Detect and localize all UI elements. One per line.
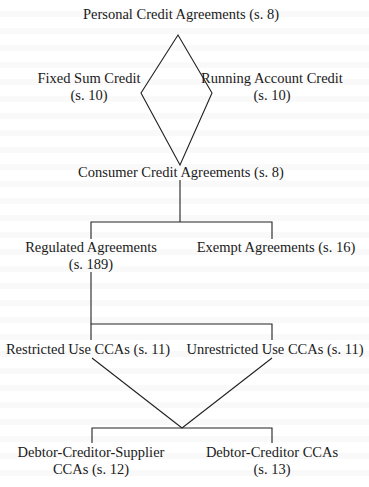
node-label: Exempt Agreements (s. 16): [197, 239, 356, 256]
node-section: (s. 13): [206, 461, 338, 478]
connector-regulated-branch: [91, 324, 272, 340]
node-section: (s. 189): [25, 256, 157, 273]
node-label: Running Account Credit: [201, 70, 343, 87]
node-consumer-credit-agreements: Consumer Credit Agreements (s. 8): [78, 164, 284, 181]
node-section: (s. 10): [37, 87, 140, 104]
node-label: Debtor-Creditor-Supplier: [18, 444, 165, 461]
node-exempt-agreements: Exempt Agreements (s. 16): [197, 239, 356, 256]
node-section: CCAs (s. 12): [18, 461, 165, 478]
node-debtor-creditor-supplier-ccas: Debtor-Creditor-Supplier CCAs (s. 12): [18, 444, 165, 478]
node-label: Regulated Agreements: [25, 239, 157, 256]
node-restricted-use-ccas: Restricted Use CCAs (s. 11): [6, 341, 170, 358]
node-label: Unrestricted Use CCAs (s. 11): [186, 341, 363, 358]
connector-consumer-branch: [91, 222, 272, 239]
connector-unrestricted-diagonal: [182, 358, 272, 428]
node-label: Restricted Use CCAs (s. 11): [6, 341, 170, 358]
node-regulated-agreements: Regulated Agreements (s. 189): [25, 239, 157, 273]
connector-bottom-branch: [92, 428, 272, 443]
node-personal-credit-agreements: Personal Credit Agreements (s. 8): [83, 6, 279, 23]
node-fixed-sum-credit: Fixed Sum Credit (s. 10): [37, 70, 140, 104]
node-running-account-credit: Running Account Credit (s. 10): [201, 70, 343, 104]
node-label: Consumer Credit Agreements (s. 8): [78, 164, 284, 181]
node-label: Debtor-Creditor CCAs: [206, 444, 338, 461]
node-debtor-creditor-ccas: Debtor-Creditor CCAs (s. 13): [206, 444, 338, 478]
node-label: Personal Credit Agreements (s. 8): [83, 6, 279, 23]
connector-restricted-diagonal: [92, 358, 182, 428]
node-label: Fixed Sum Credit: [37, 70, 140, 87]
node-section: (s. 10): [201, 87, 343, 104]
node-unrestricted-use-ccas: Unrestricted Use CCAs (s. 11): [186, 341, 363, 358]
